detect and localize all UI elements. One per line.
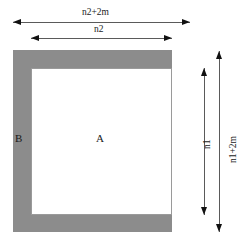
- arrow-left-icon: [31, 35, 39, 41]
- dimension-line-right-outer: [219, 51, 220, 232]
- dimension-line-top-outer: [13, 22, 190, 23]
- arrow-down-icon: [201, 207, 207, 215]
- dimension-line-top-inner: [31, 38, 172, 39]
- dimension-label-right-inner: n1: [203, 140, 213, 150]
- arrow-right-icon: [182, 19, 190, 25]
- dimension-label-right-outer: n1+2m: [229, 136, 239, 163]
- region-label-a: A: [96, 133, 104, 144]
- arrow-down-icon: [216, 224, 222, 232]
- dimension-diagram: B A n2+2m n2 n1 n1+2m: [0, 0, 242, 246]
- arrow-up-icon: [216, 51, 222, 59]
- dimension-label-top-inner: n2: [94, 25, 104, 35]
- region-label-b: B: [15, 133, 22, 144]
- arrow-left-icon: [13, 19, 21, 25]
- arrow-right-icon: [164, 35, 172, 41]
- arrow-up-icon: [201, 68, 207, 76]
- dimension-label-top-outer: n2+2m: [82, 8, 109, 18]
